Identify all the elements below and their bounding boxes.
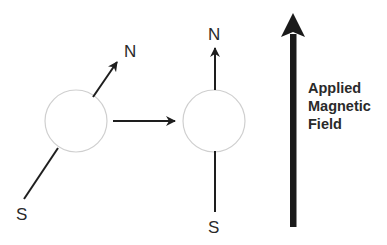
applied-field-label: Applied Magnetic Field (308, 80, 371, 132)
aligned-north-label: N (208, 25, 220, 44)
field-label-line3: Field (308, 116, 342, 132)
field-label-line1: Applied (308, 80, 361, 96)
tilted-north-label: N (124, 42, 136, 61)
aligned-south-label: S (208, 218, 219, 237)
aligned-dipole: N S (183, 25, 245, 237)
tilted-moment-south-segment (24, 148, 58, 199)
field-label-line2: Magnetic (308, 98, 371, 114)
tilted-particle-circle (45, 90, 107, 152)
applied-field-arrow-icon (281, 13, 305, 227)
tilted-moment-north-arrow (93, 62, 117, 97)
magnetic-alignment-diagram: N S N S Applied Magnetic Field (0, 0, 387, 245)
tilted-dipole: N S (16, 42, 136, 224)
aligned-particle-circle (183, 90, 245, 152)
tilted-south-label: S (16, 205, 27, 224)
